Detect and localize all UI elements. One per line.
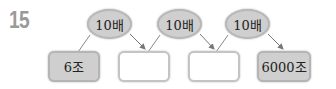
box-value: 6조 [64, 57, 84, 76]
multiplier-oval-3: 10배 [225, 9, 270, 39]
answer-box-3[interactable] [188, 51, 240, 82]
value-box-4: 6000조 [257, 51, 311, 82]
multiplier-oval-2: 10배 [157, 9, 202, 39]
value-box-1: 6조 [48, 51, 100, 82]
multiplier-label: 10배 [95, 15, 124, 34]
multiplier-label: 10배 [165, 15, 194, 34]
multiplier-oval-1: 10배 [87, 9, 132, 39]
box-value: 6000조 [261, 57, 306, 76]
multiplier-label: 10배 [233, 15, 262, 34]
answer-box-2[interactable] [118, 51, 170, 82]
